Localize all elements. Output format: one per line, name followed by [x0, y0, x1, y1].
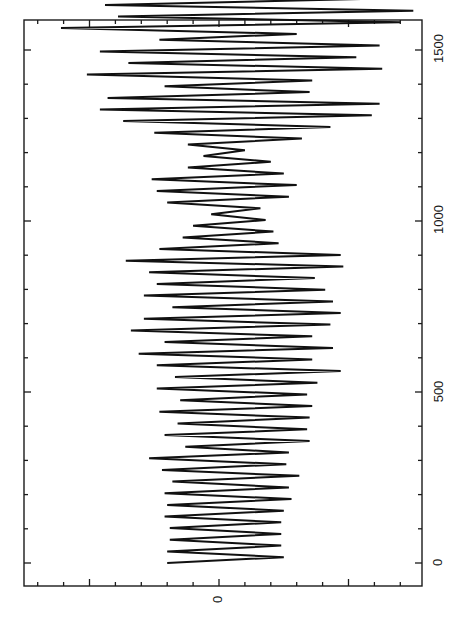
signal-series [51, 0, 414, 563]
y-tick-label-0: 0 [210, 596, 225, 603]
x-tick-label-1500: 1500 [431, 34, 446, 63]
x-tick-label-500: 500 [431, 381, 446, 403]
rotated-line-chart [0, 0, 460, 623]
x-tick-label-1000: 1000 [431, 205, 446, 234]
x-tick-label-0: 0 [430, 559, 445, 566]
